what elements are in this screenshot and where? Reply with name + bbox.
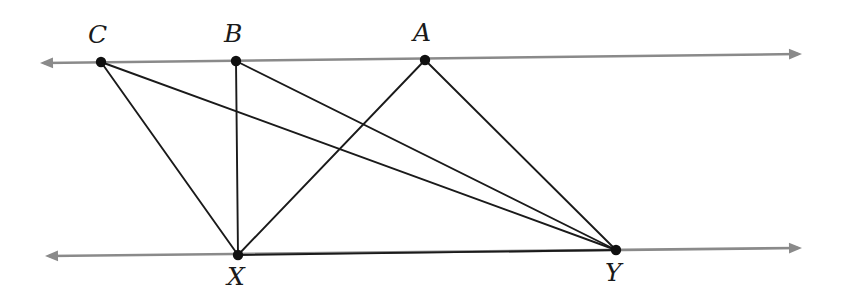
point-label-y: Y — [605, 260, 622, 285]
point-x — [233, 250, 243, 260]
top-line-arrow-end — [789, 49, 802, 60]
point-b — [231, 56, 241, 66]
point-label-a: A — [413, 20, 431, 45]
segments-group — [101, 60, 616, 255]
points-group — [96, 55, 621, 260]
point-y — [611, 245, 621, 255]
point-c — [96, 57, 106, 67]
point-a — [420, 55, 430, 65]
top-line-arrow-start — [40, 57, 53, 68]
point-label-x: X — [227, 264, 245, 289]
point-label-b: B — [224, 21, 242, 46]
segment-AX — [238, 60, 425, 255]
segment-BX — [236, 61, 238, 255]
segment-AY — [425, 60, 616, 250]
point-label-c: C — [88, 22, 107, 47]
segment-CY — [101, 62, 616, 250]
bottom-line-arrow-start — [45, 250, 58, 261]
segment-BY — [236, 61, 616, 250]
geometry-diagram: CBAXY — [0, 0, 841, 300]
bottom-line-arrow-end — [789, 243, 802, 254]
segment-CX — [101, 62, 238, 255]
